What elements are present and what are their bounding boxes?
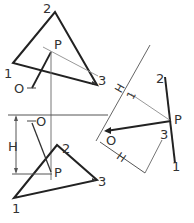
- aux-edge-label-3: 3: [160, 128, 168, 141]
- top-view-sight-line: [32, 52, 51, 88]
- top-view-observer-o: O: [14, 82, 24, 95]
- front-view-observer-o: O: [36, 115, 46, 128]
- front-view-vertex-1: 1: [12, 202, 20, 215]
- aux-point-p: P: [174, 113, 182, 126]
- h-arrow-top: [14, 115, 18, 121]
- aux-edge-label-2: 2: [156, 72, 164, 85]
- front-view-vertex-3: 3: [98, 175, 106, 188]
- aux-observer-o: O: [106, 134, 116, 147]
- front-view: [12, 115, 97, 198]
- top-view-point-p: P: [54, 38, 62, 51]
- descriptive-geometry-drawing: [0, 0, 194, 223]
- auxiliary-view: [96, 45, 175, 173]
- front-view-dimension-h: H: [8, 140, 18, 153]
- top-view-vertex-1: 1: [4, 67, 12, 80]
- aux-h-extension: [145, 140, 162, 173]
- h-arrow-bottom: [14, 168, 18, 174]
- front-view-vertex-2: 2: [62, 142, 70, 155]
- top-view-vertex-2: 2: [43, 2, 51, 15]
- front-view-point-p: P: [54, 166, 62, 179]
- aux-edge-label-1: 1: [172, 160, 180, 173]
- top-view-vertex-3: 3: [98, 74, 106, 87]
